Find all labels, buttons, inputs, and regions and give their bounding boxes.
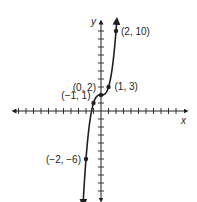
point-label: (1, 3) [115,81,138,92]
point-label: (−1, 1) [61,90,90,101]
data-point [91,101,95,105]
point-label: (−2, −6) [46,154,81,165]
x-axis-label: x [180,115,187,126]
data-point [84,157,88,161]
y-axis-label: y [90,16,97,27]
data-point [99,93,103,97]
point-label: (2, 10) [121,26,150,37]
data-point [114,29,118,33]
data-point [106,85,110,89]
cubic-graph: x y (2, 10)(1, 3)(0, 2)(−1, 1)(−2, −6) [0,0,197,202]
